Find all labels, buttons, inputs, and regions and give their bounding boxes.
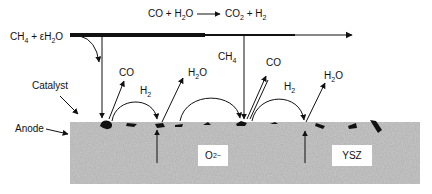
product-co-1: CO	[119, 67, 134, 79]
catalyst-label: Catalyst	[32, 80, 68, 92]
product-co-2: CO	[266, 57, 281, 69]
catalyst-pointer	[60, 96, 78, 114]
ch4-label: CH4	[218, 51, 236, 67]
anode-label: Anode	[15, 123, 44, 135]
product-h2-2: H2	[284, 81, 295, 97]
ysz-box: YSZ	[332, 145, 372, 166]
shift-reaction-lhs: CO + H2O	[148, 8, 193, 24]
anode-pointer	[46, 129, 68, 134]
product-h2o-2: H2O	[324, 70, 343, 86]
oxide-ion-box: O2−	[198, 145, 228, 166]
product-h2-1: H2	[140, 85, 151, 101]
feed-label: CH4 + εH2O	[10, 31, 63, 47]
shift-reaction-rhs: CO2 + H2	[225, 8, 266, 24]
product-h2o-1: H2O	[188, 67, 207, 83]
feed-curve-arrow	[80, 36, 99, 62]
